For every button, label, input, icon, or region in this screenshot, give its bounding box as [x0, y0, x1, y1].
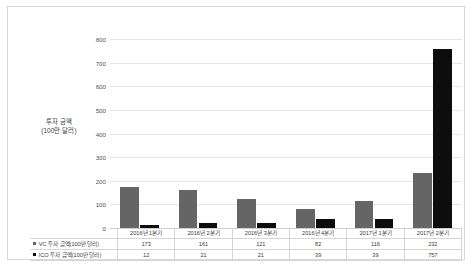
column-header-2016년 1분기: 2016년 1분기 [118, 228, 175, 239]
table-row: 2016년 1분기2016년 2분기2016년 3분기2016년 4분기2017… [30, 228, 462, 239]
bar-vc [120, 187, 139, 228]
bar-vc [355, 201, 374, 228]
data-cell-vc-2016년 1분기: 173 [118, 239, 175, 250]
column-header-2017년 2분기: 2017년 2분기 [404, 228, 461, 239]
data-cell-vc-2016년 3분기: 121 [232, 239, 289, 250]
data-cell-ico-2017년 2분기: 757 [404, 250, 461, 261]
y-axis-title-line-2: (100만 달러) [20, 126, 98, 135]
data-cell-vc-2016년 2분기: 161 [175, 239, 232, 250]
y-tick-label-300: 300 [96, 154, 106, 161]
legend-item-ico[interactable]: ICO 투자 금액(100만 달러) [30, 250, 118, 261]
column-header-2016년 2분기: 2016년 2분기 [175, 228, 232, 239]
bar-vc [179, 190, 198, 228]
column-header-2016년 3분기: 2016년 3분기 [232, 228, 289, 239]
y-tick-label-100: 100 [96, 201, 106, 208]
legend-label: ICO 투자 금액(100만 달러) [39, 252, 102, 258]
y-tick-label-200: 200 [96, 177, 106, 184]
y-tick-label-400: 400 [96, 130, 106, 137]
plot-area: 8007006005004003002001000 [110, 39, 462, 228]
bar-group [286, 39, 345, 228]
y-tick-label-800: 800 [96, 36, 106, 43]
bar-group [110, 39, 169, 228]
data-cell-ico-2017년 1분기: 39 [347, 250, 404, 261]
bar-vc [237, 199, 256, 228]
bars-layer [110, 39, 462, 228]
chart-frame: 투자 금액 (100만 달러) 800700600500400300200100… [7, 6, 465, 260]
table-corner-spacer [30, 228, 118, 239]
y-axis-title: 투자 금액 (100만 달러) [20, 117, 98, 135]
y-tick-label-600: 600 [96, 83, 106, 90]
column-header-2017년 1분기: 2017년 1분기 [347, 228, 404, 239]
bar-vc [413, 173, 432, 228]
bar-group [403, 39, 462, 228]
legend-item-vc[interactable]: VC 투자 금액(100만 달러) [30, 239, 118, 250]
data-cell-vc-2016년 4분기: 82 [289, 239, 346, 250]
data-cell-ico-2016년 3분기: 21 [232, 250, 289, 261]
table-row: VC 투자 금액(100만 달러)17316112182116232 [30, 239, 462, 250]
data-cell-vc-2017년 2분기: 232 [404, 239, 461, 250]
y-tick-label-700: 700 [96, 59, 106, 66]
bar-group [227, 39, 286, 228]
data-cell-vc-2017년 1분기: 116 [347, 239, 404, 250]
legend-swatch-icon [33, 242, 36, 245]
bar-ico [375, 219, 394, 228]
data-cell-ico-2016년 1분기: 12 [118, 250, 175, 261]
y-axis-title-line-1: 투자 금액 [20, 117, 98, 126]
bar-vc [296, 209, 315, 228]
table-row: ICO 투자 금액(100만 달러)1221213939757 [30, 250, 462, 261]
bar-ico [316, 219, 335, 228]
legend-label: VC 투자 금액(100만 달러) [39, 241, 100, 247]
bar-group [169, 39, 228, 228]
data-cell-ico-2016년 2분기: 21 [175, 250, 232, 261]
bar-group [345, 39, 404, 228]
data-table: 2016년 1분기2016년 2분기2016년 3분기2016년 4분기2017… [30, 228, 462, 261]
data-cell-ico-2016년 4분기: 39 [289, 250, 346, 261]
y-tick-label-500: 500 [96, 106, 106, 113]
column-header-2016년 4분기: 2016년 4분기 [289, 228, 346, 239]
legend-swatch-icon [33, 253, 36, 256]
bar-ico [433, 49, 452, 228]
